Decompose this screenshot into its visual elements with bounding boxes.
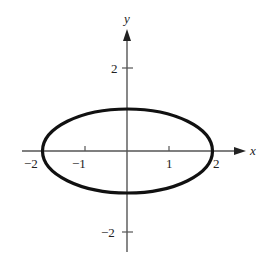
x-tick-label-minus-1: −1 <box>72 156 86 171</box>
x-tick-label-minus-2: −2 <box>24 156 38 171</box>
x-axis-arrow-icon <box>234 147 246 155</box>
x-tick-label-2: 2 <box>213 156 220 171</box>
ellipse-graph: x y −2 −1 1 2 2 −2 <box>0 0 272 265</box>
x-tick-label-1: 1 <box>166 156 173 171</box>
y-tick-label-minus-2: −2 <box>101 225 115 240</box>
x-axis-label: x <box>249 143 256 158</box>
y-axis-label: y <box>122 11 130 26</box>
y-axis-arrow-icon <box>123 29 131 41</box>
y-tick-label-2: 2 <box>111 61 118 76</box>
